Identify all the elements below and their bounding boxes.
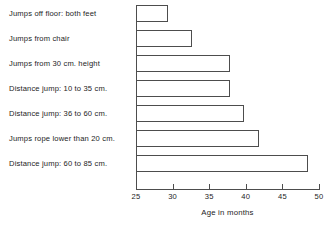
category-label: Jumps from 30 cm. height — [0, 59, 131, 68]
category-label: Jumps from chair — [0, 34, 131, 43]
bar — [136, 130, 259, 147]
bar — [136, 55, 230, 72]
x-axis-tick — [173, 184, 174, 190]
x-axis-title: Age in months — [136, 208, 319, 218]
x-axis-tick — [246, 184, 247, 190]
category-label: Jumps off floor: both feet — [0, 9, 131, 18]
x-axis-tick-label: 50 — [315, 192, 324, 201]
bar — [136, 155, 308, 172]
x-axis-tick — [136, 184, 137, 190]
bar — [136, 105, 244, 122]
x-axis-tick — [319, 184, 320, 190]
category-label: Distance jump: 60 to 85 cm. — [0, 159, 131, 168]
x-axis-tick — [282, 184, 283, 190]
x-axis-tick-label: 25 — [132, 192, 141, 201]
x-axis-tick-label: 40 — [241, 192, 250, 201]
category-label: Distance jump: 10 to 35 cm. — [0, 84, 131, 93]
x-axis-tick-label: 30 — [168, 192, 177, 201]
category-label: Jumps rope lower than 20 cm. — [0, 134, 131, 143]
bar-chart: Jumps off floor: both feet Jumps from ch… — [0, 0, 333, 228]
bar — [136, 80, 230, 97]
bar — [136, 5, 168, 22]
category-label: Distance jump: 36 to 60 cm. — [0, 109, 131, 118]
x-axis-line — [136, 189, 319, 190]
y-axis-line — [136, 9, 137, 190]
x-axis-tick — [209, 184, 210, 190]
bar — [136, 30, 192, 47]
x-axis-tick-label: 45 — [278, 192, 287, 201]
x-axis-tick-label: 35 — [205, 192, 214, 201]
